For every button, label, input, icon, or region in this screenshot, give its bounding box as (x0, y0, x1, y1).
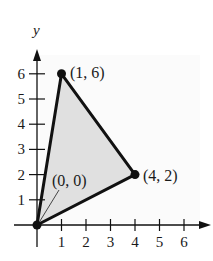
triangle-plot: y 123456 123456 (0, 0) (1, 6) (4, 2) (0, 0, 213, 261)
point-label-top: (1, 6) (70, 64, 105, 82)
point-label-origin: (0, 0) (52, 172, 87, 190)
y-axis-label: y (31, 22, 40, 38)
x-axis-arrow-icon (199, 221, 211, 229)
y-tick-label: 2 (18, 167, 26, 183)
y-tick-label: 5 (18, 91, 26, 107)
vertex-dot (33, 221, 42, 230)
y-tick-label: 4 (18, 116, 26, 132)
y-tick-label: 6 (18, 66, 26, 82)
x-tick-label: 3 (107, 234, 115, 250)
x-tick-label: 6 (180, 234, 188, 250)
point-label-right: (4, 2) (143, 167, 178, 185)
x-tick-label: 1 (58, 234, 66, 250)
x-tick-label: 2 (82, 234, 90, 250)
y-axis-arrow-icon (33, 49, 41, 61)
y-tick-label: 3 (18, 141, 26, 157)
x-tick-label: 4 (131, 234, 139, 250)
x-tick-label: 5 (156, 234, 164, 250)
vertex-dot (57, 69, 66, 78)
vertex-dot (131, 170, 140, 179)
y-tick-label: 1 (18, 192, 26, 208)
x-ticks: 123456 (58, 219, 189, 250)
